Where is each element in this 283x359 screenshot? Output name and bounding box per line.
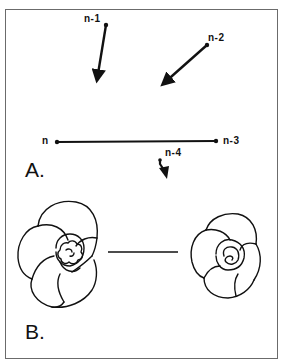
foraminifera-shell-right <box>191 214 260 298</box>
vector-n-minus-1 <box>97 23 108 80</box>
vector-n-to-n-minus-3 <box>55 139 218 144</box>
label-n-minus-1: n-1 <box>84 13 101 24</box>
vector-n-minus-4 <box>158 158 169 179</box>
vector-n-minus-2 <box>163 43 209 84</box>
label-n-minus-4: n-4 <box>165 147 182 158</box>
foraminifera-shell-left <box>18 201 97 307</box>
panel-label-b: B. <box>25 320 45 344</box>
label-n-minus-2: n-2 <box>208 32 225 43</box>
label-n: n <box>42 135 49 146</box>
panel-label-a: A. <box>25 158 45 182</box>
label-n-minus-3: n-3 <box>223 135 240 146</box>
